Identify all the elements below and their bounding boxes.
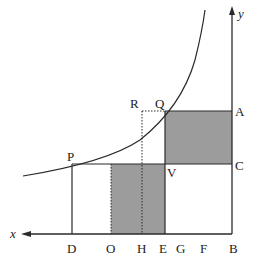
y-axis-arrow-icon: [229, 6, 235, 15]
x-axis-arrow-icon: [21, 231, 31, 237]
label-V: V: [167, 165, 177, 180]
label-Q: Q: [155, 96, 165, 111]
x-axis-label: x: [9, 226, 16, 241]
label-O: O: [106, 241, 115, 256]
label-E: E: [159, 241, 167, 256]
shaded-rect-upper: [165, 111, 232, 164]
y-axis-label: y: [236, 6, 244, 21]
label-F: F: [200, 241, 207, 256]
label-H: H: [137, 241, 146, 256]
label-G: G: [176, 241, 185, 256]
label-B: B: [229, 241, 238, 256]
label-D: D: [67, 241, 76, 256]
label-A: A: [235, 104, 245, 119]
diagram-figure: y x D O H E G F B A C P Q R V: [0, 0, 258, 261]
label-R: R: [130, 96, 139, 111]
shaded-rect-lower: [111, 164, 165, 234]
label-C: C: [235, 158, 244, 173]
label-P: P: [67, 149, 74, 164]
